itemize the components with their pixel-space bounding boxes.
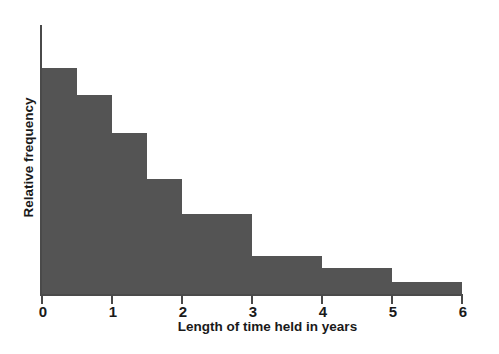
x-axis-tick-label: 0 [28,303,58,320]
y-axis-line [40,25,42,296]
histogram-bar [77,95,112,295]
x-axis-tick-label: 6 [448,303,478,320]
x-axis-tick-label: 5 [378,303,408,320]
histogram-bar [322,268,392,295]
histogram-figure: 0123456 Length of time held in years Rel… [0,0,499,354]
histogram-bar [112,133,147,295]
x-axis-title: Length of time held in years [0,319,499,334]
x-axis-tick-label: 3 [238,303,268,320]
y-axis-title: Relative frequency [21,68,36,248]
histogram-bar [182,214,252,295]
plot-area [42,25,462,295]
histogram-bar [252,256,322,295]
histogram-bar [147,179,182,295]
x-axis-tick-label: 1 [98,303,128,320]
x-axis-tick-label: 2 [168,303,198,320]
x-axis-tick-label: 4 [308,303,338,320]
histogram-bar [42,68,77,295]
